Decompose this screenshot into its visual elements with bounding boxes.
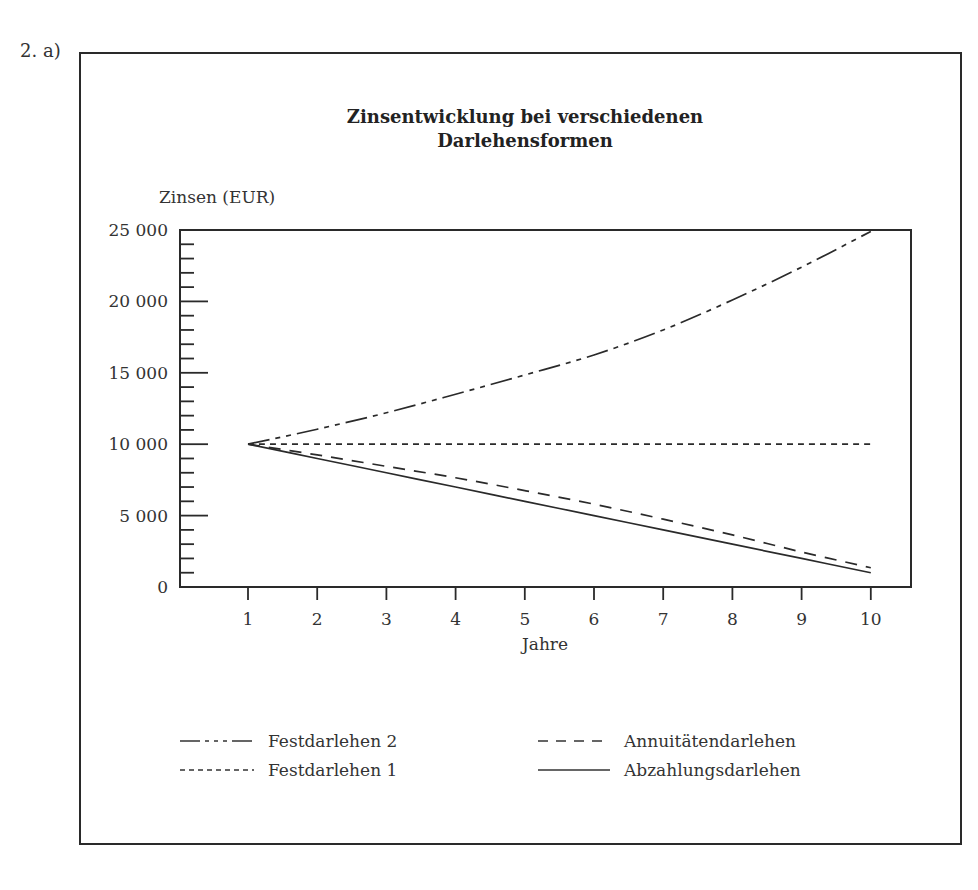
- y-tick-label: 15 000: [109, 363, 168, 383]
- x-tick-label: 3: [381, 609, 392, 629]
- y-tick-label: 0: [157, 577, 168, 597]
- y-tick-label: 25 000: [109, 220, 168, 240]
- x-tick-label: 8: [727, 609, 738, 629]
- x-axis: 12345678910: [243, 587, 882, 629]
- legend-label: Festdarlehen 1: [268, 760, 397, 780]
- chart-title: Zinsentwicklung bei verschiedenenDarlehe…: [347, 106, 703, 151]
- chart-title-line: Darlehensformen: [437, 130, 613, 151]
- legend-item-festdarlehen-2: Festdarlehen 2: [180, 731, 397, 751]
- legend-label: Annuitätendarlehen: [624, 731, 796, 751]
- x-tick-label: 1: [243, 609, 254, 629]
- legend-item-abzahlungsdarlehen: Abzahlungsdarlehen: [538, 760, 801, 780]
- chart-title-line: Zinsentwicklung bei verschiedenen: [347, 106, 703, 127]
- short-dash-line-icon: [180, 767, 254, 773]
- y-axis-label: Zinsen (EUR): [159, 187, 275, 207]
- legend-label: Festdarlehen 2: [268, 731, 397, 751]
- legend-item-festdarlehen-1: Festdarlehen 1: [180, 760, 397, 780]
- y-tick-label: 10 000: [109, 434, 168, 454]
- long-dash-line-icon: [538, 738, 610, 744]
- x-axis-label: Jahre: [520, 634, 568, 654]
- dash-dot-dot-line-icon: [180, 738, 254, 744]
- y-tick-label: 20 000: [109, 291, 168, 311]
- series-line-festdarlehen-2: [248, 231, 871, 444]
- x-tick-label: 10: [860, 609, 882, 629]
- x-tick-label: 7: [658, 609, 669, 629]
- legend-label: Abzahlungsdarlehen: [624, 760, 801, 780]
- line-chart: Zinsentwicklung bei verschiedenenDarlehe…: [0, 0, 978, 890]
- x-tick-label: 4: [450, 609, 461, 629]
- x-tick-label: 6: [589, 609, 600, 629]
- plot-area: [180, 230, 911, 587]
- y-tick-label: 5 000: [119, 506, 168, 526]
- x-tick-label: 5: [519, 609, 530, 629]
- series-line-abzahlungsdarlehen: [248, 444, 871, 573]
- legend-item-annuitaetendarlehen: Annuitätendarlehen: [538, 731, 796, 751]
- series-lines: [248, 231, 871, 572]
- y-axis: 05 00010 00015 00020 00025 000: [109, 220, 208, 597]
- solid-line-icon: [538, 767, 610, 773]
- x-tick-label: 2: [312, 609, 323, 629]
- x-tick-label: 9: [796, 609, 807, 629]
